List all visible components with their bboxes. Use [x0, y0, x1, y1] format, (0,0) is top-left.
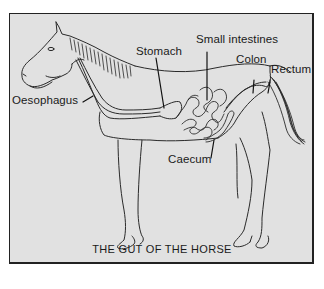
caecum-leader	[211, 140, 214, 158]
colon-tube	[224, 80, 270, 112]
stomach-leader	[156, 58, 164, 108]
figure-caption: THE GUT OF THE HORSE	[0, 243, 324, 255]
horse-mane	[70, 38, 131, 78]
label-colon: Colon	[236, 53, 267, 65]
label-small-intestines: Small intestines	[196, 33, 278, 45]
horse-head	[22, 22, 135, 88]
colon-leader	[253, 80, 254, 93]
label-caecum: Caecum	[168, 153, 211, 165]
horse-front-legs	[117, 140, 143, 249]
horse-hind-legs	[234, 112, 270, 248]
label-stomach: Stomach	[136, 45, 182, 57]
label-rectum: Rectum	[271, 63, 311, 75]
label-oesophagus: Oesophagus	[12, 94, 78, 106]
horse-tail	[268, 76, 305, 144]
horse-body	[78, 58, 290, 141]
oesophagus-tube	[76, 58, 160, 114]
oesophagus-leader	[83, 96, 93, 102]
